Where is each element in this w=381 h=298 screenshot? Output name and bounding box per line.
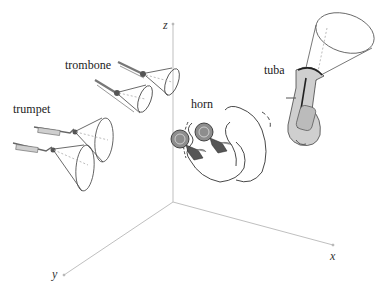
axis-label-z: z [163,19,168,31]
label-horn: horn [191,98,213,110]
tuba-icon [286,67,324,145]
trombone-1-cone [146,67,182,97]
tuba-cone [305,6,379,110]
horn-2-lobe [225,106,270,181]
horn-2-icon [195,123,232,153]
trumpet-2-cone [54,144,96,191]
axis-label-y: y [52,268,57,280]
trombone-2-cone [119,84,155,114]
trombone-1-icon [118,62,146,78]
label-tuba: tuba [264,64,285,76]
label-trumpet: trumpet [13,103,50,115]
y-axis [64,202,173,275]
trumpet-1-cone [76,117,115,162]
x-axis [173,202,333,245]
axis-label-x: x [330,250,335,262]
trumpet-2-icon [13,143,56,153]
label-trombone: trombone [65,59,111,71]
trumpet-1-icon [34,127,78,136]
trombone-2-icon [95,80,134,112]
diagram-svg [0,0,381,298]
diagram-canvas: trombone trumpet horn tuba z x y [0,0,381,298]
